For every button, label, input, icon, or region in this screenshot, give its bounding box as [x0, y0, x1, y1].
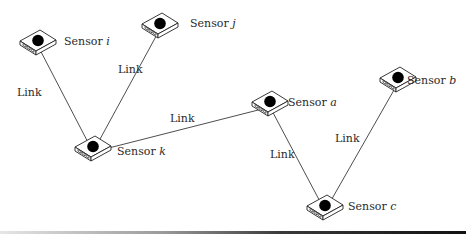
sensor-label-prefix: Sensor: [64, 35, 103, 48]
sensor-dot-icon: [154, 18, 166, 30]
sensor-device-icon: [75, 136, 111, 161]
sensor-label-i: Sensor i: [64, 36, 110, 47]
sensor-label-prefix: Sensor: [117, 145, 156, 158]
link-label-k-a: Link: [170, 113, 195, 124]
sensor-label-a: Sensor a: [288, 97, 337, 108]
sensor-node-a: [252, 91, 288, 116]
sensor-label-variable: a: [330, 96, 337, 109]
link-i-k: [38, 46, 93, 152]
sensor-label-b: Sensor b: [407, 75, 456, 86]
sensor-label-k: Sensor k: [117, 146, 166, 157]
sensor-label-j: Sensor j: [190, 18, 236, 29]
sensor-label-prefix: Sensor: [407, 74, 446, 87]
sensor-dot-icon: [392, 72, 404, 84]
sensor-device-icon: [307, 195, 343, 220]
sensor-label-variable: j: [232, 17, 235, 30]
sensor-node-c: [307, 195, 343, 220]
sensor-node-j: [142, 13, 178, 38]
sensor-label-prefix: Sensor: [190, 17, 229, 30]
sensor-dot-icon: [264, 96, 276, 108]
bottom-rule: [0, 231, 466, 234]
sensor-label-prefix: Sensor: [348, 200, 387, 213]
sensor-label-c: Sensor c: [348, 201, 396, 212]
sensor-device-icon: [142, 13, 178, 38]
sensor-label-variable: b: [449, 74, 456, 87]
sensor-node-k: [75, 136, 111, 161]
link-label-a-c: Link: [270, 149, 295, 160]
sensor-label-variable: k: [159, 145, 166, 158]
link-label-b-c: Link: [335, 133, 360, 144]
sensor-label-prefix: Sensor: [288, 96, 327, 109]
sensor-dot-icon: [87, 141, 99, 153]
sensor-dot-icon: [319, 200, 331, 212]
sensor-label-variable: c: [390, 200, 396, 213]
link-label-i-k: Link: [17, 87, 42, 98]
sensor-dot-icon: [32, 35, 44, 47]
sensor-node-i: [20, 30, 56, 55]
links-layer: [38, 29, 398, 211]
sensor-device-icon: [252, 91, 288, 116]
sensor-label-variable: i: [106, 35, 110, 48]
link-label-j-k: Link: [118, 64, 143, 75]
sensor-device-icon: [20, 30, 56, 55]
